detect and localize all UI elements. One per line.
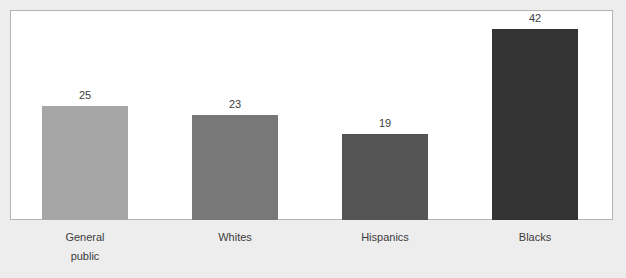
bar-blacks[interactable]	[492, 29, 578, 220]
bars-layer: 25 23 19 42	[10, 10, 613, 220]
category-label-line-1: Whites	[218, 231, 252, 243]
category-label-line-2: public	[10, 247, 160, 266]
category-label-hispanics: Hispanics	[310, 228, 460, 247]
bar-chart-figure: 25 23 19 42 General public Whites Hispan…	[0, 0, 626, 278]
bar-value-label: 23	[229, 98, 241, 110]
category-axis-labels: General public Whites Hispanics Blacks	[10, 228, 613, 278]
bar-group-general-public: 25	[10, 10, 160, 220]
category-label-whites: Whites	[160, 228, 310, 247]
category-label-general-public: General public	[10, 228, 160, 266]
bar-group-whites: 23	[160, 10, 310, 220]
category-label-line-1: General	[65, 231, 104, 243]
bar-general-public[interactable]	[42, 106, 128, 220]
bar-hispanics[interactable]	[342, 134, 428, 220]
bar-value-label: 25	[79, 89, 91, 101]
clipped-chart-title	[0, 0, 626, 4]
bar-group-hispanics: 19	[310, 10, 460, 220]
bar-whites[interactable]	[192, 115, 278, 220]
category-label-line-1: Blacks	[519, 231, 551, 243]
bar-value-label: 42	[529, 12, 541, 24]
bar-group-blacks: 42	[460, 10, 610, 220]
category-label-line-1: Hispanics	[361, 231, 409, 243]
category-label-blacks: Blacks	[460, 228, 610, 247]
bar-value-label: 19	[379, 117, 391, 129]
